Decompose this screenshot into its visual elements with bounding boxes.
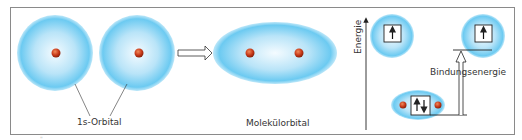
pointer-line (110, 84, 127, 116)
atomic-orbital-left (17, 15, 93, 91)
nucleus-icon (400, 102, 407, 109)
nucleus-icon (435, 102, 442, 109)
pointer-line (75, 84, 90, 116)
label-binding-energy: Bindungsenergie (430, 67, 506, 77)
nucleus-icon (135, 49, 144, 58)
molecular-orbital (213, 22, 337, 84)
stray-mark: " (40, 135, 43, 140)
binding-energy-arrow-icon (456, 51, 466, 115)
nucleus-icon (52, 49, 61, 58)
atomic-orbital-right (99, 15, 175, 91)
nucleus-icon (295, 49, 304, 58)
nucleus-icon (246, 49, 255, 58)
electron-box-molecule (411, 96, 430, 115)
hollow-arrow-icon (178, 46, 212, 60)
label-1s-orbital: 1s-Orbital (77, 117, 121, 127)
label-molecular-orbital: Molekülorbital (246, 118, 309, 128)
label-energy-axis: Energie (353, 20, 363, 54)
